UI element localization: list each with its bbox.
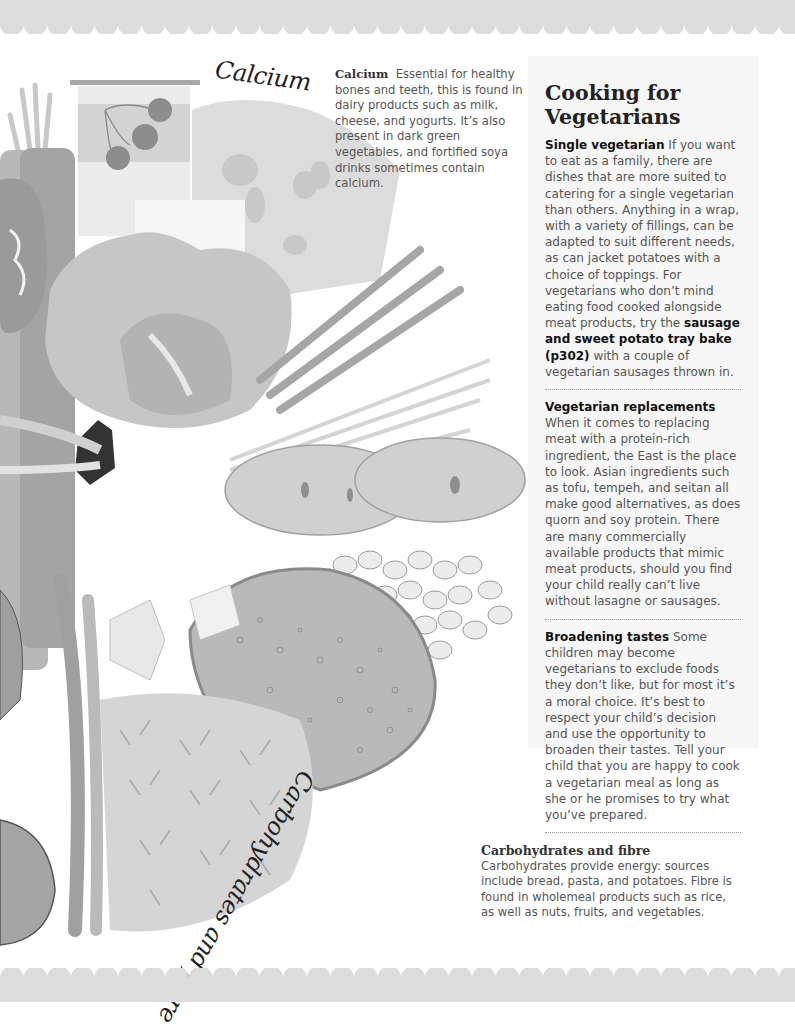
carrot-icon: [10, 85, 50, 150]
caption-carbs-text: Carbohydrates provide energy: sources in…: [481, 859, 732, 920]
caption-calcium: Calcium Essential for healthy bones and …: [335, 67, 525, 192]
section-lead: Broadening tastes: [545, 630, 669, 644]
panel-title: Cooking for Vegetarians: [545, 81, 741, 129]
section-text: When it comes to replacing meat with a p…: [545, 416, 740, 608]
caption-carbs: Carbohydrates and fibre Carbohydrates pr…: [481, 843, 741, 921]
section-lead: Single vegetarian: [545, 138, 665, 152]
scallop-border-bottom: [0, 968, 795, 1002]
section-single-vegetarian: Single vegetarian If you want to eat as …: [545, 137, 741, 390]
section-lead: Vegetarian replacements: [545, 400, 715, 414]
section-vegetarian-replacements: Vegetarian replacements When it comes to…: [545, 399, 741, 620]
caption-carbs-title: Carbohydrates and fibre: [481, 843, 741, 859]
section-text: Some children may become vegetarians to …: [545, 630, 740, 822]
section-text: If you want to eat as a family, there ar…: [545, 138, 739, 330]
section-broadening-tastes: Broadening tastes Some children may beco…: [545, 629, 741, 833]
scallop-border-top: [0, 0, 795, 34]
sidebar-panel: Cooking for Vegetarians Single vegetaria…: [528, 56, 758, 748]
caption-calcium-text: Essential for healthy bones and teeth, t…: [335, 67, 523, 190]
caption-calcium-title: Calcium: [335, 67, 388, 81]
